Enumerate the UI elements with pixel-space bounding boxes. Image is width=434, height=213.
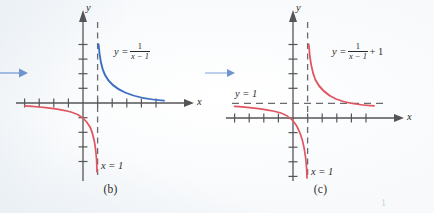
- figure-container: x y y =1x − 1 x = 1 (b): [0, 0, 434, 213]
- fraction-denominator: x − 1: [130, 52, 150, 62]
- fraction-denominator: x − 1: [348, 52, 368, 62]
- equation-label: y =1x − 1: [114, 42, 151, 62]
- curve-left-branch: [235, 106, 307, 178]
- equation-lhs: y =: [114, 46, 128, 57]
- y-axis: [289, 10, 297, 181]
- fraction-numerator: 1: [348, 42, 368, 51]
- equation-lhs: y =: [332, 46, 346, 57]
- x-axis: [226, 114, 404, 122]
- y-axis-label: y: [86, 2, 91, 13]
- panel-b-caption: (b): [8, 183, 213, 195]
- page-number: 1: [381, 197, 386, 208]
- horizontal-asymptote-label: y = 1: [235, 88, 257, 99]
- fraction-numerator: 1: [130, 42, 150, 51]
- x-axis-label: x: [197, 96, 202, 107]
- y-axis: [79, 10, 87, 181]
- vertical-asymptote-label: x = 1: [311, 166, 333, 177]
- panel-c: x y y =1x − 1+ 1 x = 1 y = 1 (c): [218, 0, 423, 213]
- y-axis-label: y: [296, 2, 301, 13]
- panel-b: x y y =1x − 1 x = 1 (b): [8, 0, 213, 213]
- panel-c-caption: (c): [218, 183, 423, 195]
- equation-label: y =1x − 1+ 1: [332, 42, 383, 62]
- x-axis: [16, 99, 194, 107]
- equation-fraction: 1x − 1: [130, 42, 150, 62]
- x-axis-label: x: [407, 111, 412, 122]
- equation-addend: + 1: [369, 46, 383, 57]
- vertical-asymptote-label: x = 1: [101, 160, 123, 171]
- equation-fraction: 1x − 1: [348, 42, 368, 62]
